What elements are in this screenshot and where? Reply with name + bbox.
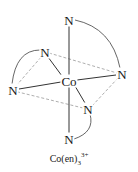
caption-base: Co(en)	[50, 153, 78, 164]
chelate-arc-lowerright-bottom	[74, 114, 91, 139]
coordination-complex-diagram: N N N N N N Co Co(en)33+	[0, 0, 138, 172]
atom-n-top: N	[63, 14, 74, 27]
bond-co-upperleft	[48, 57, 62, 76]
dashed-edge-right-lowerright	[92, 78, 118, 106]
atom-n-lower-right: N	[82, 103, 93, 116]
chelate-arc-upperleft-left	[12, 50, 40, 84]
atom-n-left: N	[7, 84, 18, 97]
dashed-edge-lowerright-left	[18, 92, 83, 108]
dashed-edge-upperleft-right	[49, 53, 117, 73]
caption-superscript: 3+	[81, 151, 88, 159]
caption-subscript: 3	[77, 159, 81, 167]
atom-n-right: N	[116, 68, 127, 81]
bond-co-right	[77, 75, 116, 80]
chelate-arc-top-right	[75, 20, 120, 68]
bond-co-lowerright	[75, 86, 85, 103]
atom-co-center: Co	[60, 75, 77, 88]
complex-formula-caption: Co(en)33+	[50, 153, 89, 164]
atom-n-upper-left: N	[39, 46, 50, 59]
atom-n-bottom: N	[63, 133, 74, 146]
bond-co-left	[19, 82, 61, 89]
